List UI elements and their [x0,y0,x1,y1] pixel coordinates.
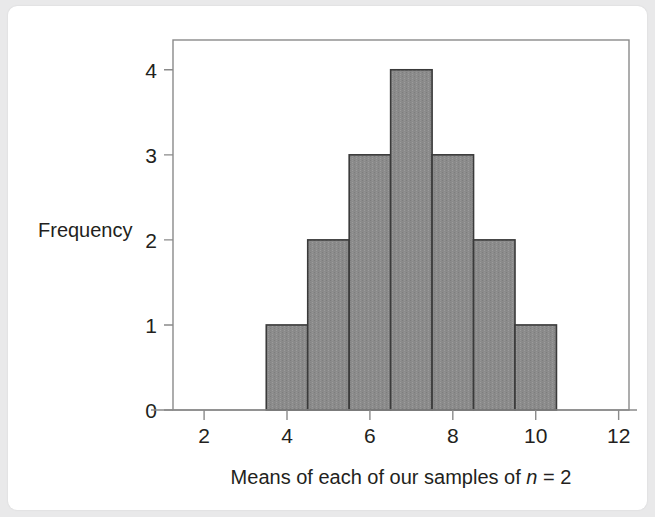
figure-card: 01234 24681012 Frequency Means of each o… [8,6,647,510]
y-tick-label: 4 [145,59,157,82]
y-axis: 01234 [145,59,173,422]
histogram-bar [308,240,349,410]
histogram-bar [349,155,390,410]
x-axis-title-italic: n [526,466,537,488]
x-tick-label: 4 [281,424,293,447]
y-tick-label: 1 [145,314,157,337]
histogram-bar [266,325,307,410]
x-axis-title-post: = 2 [537,466,571,488]
y-tick-label: 3 [145,144,157,167]
x-tick-label: 2 [198,424,210,447]
x-tick-label: 12 [607,424,630,447]
histogram-bar [432,155,473,410]
x-tick-label: 10 [524,424,547,447]
y-axis-title: Frequency [38,219,133,241]
histogram-bar [515,325,556,410]
histogram-chart: 01234 24681012 Frequency Means of each o… [8,6,647,510]
chart-svg: 01234 24681012 Frequency Means of each o… [8,6,647,510]
bars-group [266,70,556,410]
x-axis: 24681012 [151,410,637,447]
x-tick-label: 6 [364,424,376,447]
histogram-bar [474,240,515,410]
x-tick-label: 8 [447,424,459,447]
x-axis-title-pre: Means of each of our samples of [231,466,527,488]
histogram-bar [391,70,432,410]
x-axis-title: Means of each of our samples of n = 2 [231,466,572,488]
y-tick-label: 2 [145,229,157,252]
